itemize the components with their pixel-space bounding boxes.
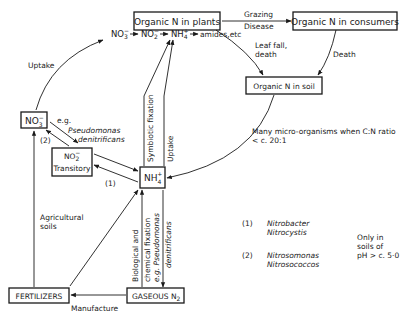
label-manufacture: Manufacture — [71, 304, 119, 313]
node-organic-n-soil: Organic N in soil — [246, 77, 322, 94]
label-leaf-fall: Leaf fall, — [255, 41, 287, 50]
node-nitrate: NO3− — [21, 112, 47, 128]
node-note: Transitory — [53, 164, 92, 173]
node-organic-n-consumers: Organic N in consumers — [291, 12, 399, 30]
node-organic-n-plants: Organic N in plants — [134, 12, 220, 30]
edge-uptake-nitrate — [36, 40, 103, 110]
label-1: (1) — [105, 179, 116, 188]
legend-org-nitrosococcos: Nitrosococcos — [267, 260, 319, 269]
label-symbiotic-fixation: Symbiotic fixation — [146, 94, 155, 162]
label-denitrificans: denitrificans — [78, 135, 125, 144]
node-label: GASEOUS N2 — [132, 292, 181, 302]
label-leaf-fall-death: death — [255, 50, 277, 59]
node-label: Organic N in consumers — [291, 17, 399, 27]
legend-org-nitrobacter: Nitrobacter — [267, 219, 310, 228]
node-label: FERTILIZERS — [16, 292, 63, 301]
node-gaseous-n2: GASEOUS N2 — [127, 288, 184, 303]
node-ammonium: NH4+ — [140, 167, 165, 188]
edge-nitrite-to-ammonium — [94, 154, 138, 171]
legend: (1) Nitrobacter Nitrocystis (2) Nitrosom… — [242, 219, 400, 269]
label-agricultural: Agricultural — [40, 213, 83, 222]
node-label: Organic N in soil — [253, 82, 314, 91]
label-cn-ratio: < c. 20:1 — [252, 136, 287, 145]
node-fertilizers: FERTILIZERS — [9, 288, 69, 303]
node-nitrite-transitory: NO2− Transitory — [52, 148, 92, 176]
label-uptake-right: Uptake — [166, 135, 175, 162]
edge-ammonium-to-nitrite — [94, 165, 138, 182]
chain-nitrate: NO3− — [111, 27, 129, 40]
node-label: NO3− — [25, 114, 44, 128]
label-uptake-left: Uptake — [28, 61, 55, 70]
label-denitrificans-vertical: denitrificans — [164, 221, 173, 268]
legend-note-line3: pH > c. 5·0 — [357, 251, 400, 260]
label-eg: e.g. — [57, 116, 71, 125]
label-biological-and: Biological and — [131, 229, 140, 282]
chain-end: amides,etc — [200, 30, 241, 39]
legend-org-nitrocystis: Nitrocystis — [267, 228, 307, 237]
legend-note-line2: soils of — [357, 242, 384, 251]
label-disease: Disease — [244, 22, 274, 31]
node-label: Organic N in plants — [134, 17, 220, 27]
label-eg-pseudomonas: e.g. Pseudomonas — [152, 213, 161, 282]
chain-nitrite: NO2− — [141, 27, 159, 40]
label-micro-organisms: Many micro-organisms when C:N ratio — [252, 127, 396, 136]
label-pseudomonas: Pseudomonas — [68, 126, 120, 135]
chain-ammonium: NH4+ — [171, 27, 189, 40]
label-death: Death — [333, 50, 356, 59]
node-label: NH4+ — [144, 170, 162, 185]
label-chemical-fixation: chemical fixation — [143, 218, 152, 282]
label-2: (2) — [40, 136, 51, 145]
legend-org-nitrosomonas: Nitrosomonas — [267, 251, 319, 260]
legend-num-1: (1) — [242, 219, 253, 228]
legend-note-line1: Only in — [357, 233, 384, 242]
label-soils: soils — [40, 222, 57, 231]
edge-fertilizer-to-ammonium — [70, 190, 138, 286]
legend-num-2: (2) — [242, 251, 253, 260]
label-grazing: Grazing — [244, 10, 273, 19]
nitrogen-cycle-diagram: Organic N in plants Organic N in consume… — [0, 0, 412, 314]
